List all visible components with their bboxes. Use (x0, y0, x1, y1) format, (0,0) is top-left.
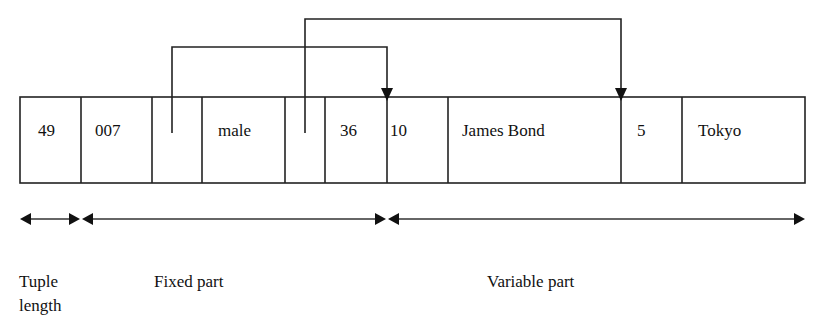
tuple-cell: 49 (20, 97, 81, 183)
cell-value: James Bond (462, 122, 545, 139)
variable-part-label: Variable part (487, 270, 574, 294)
cell-value: Tokyo (698, 122, 741, 139)
cell-value: 36 (340, 122, 357, 139)
cell-value: 49 (38, 122, 55, 139)
tuple-cell: 007 (81, 97, 152, 183)
tuple-cell: 10 (387, 97, 448, 183)
cell-value: 5 (637, 122, 646, 139)
tuple-cell: James Bond (448, 97, 621, 183)
tuple-length-label: Tuple length (19, 270, 62, 318)
tuple-cell: male (202, 97, 285, 183)
tuple-cell: 36 (325, 97, 387, 183)
cell-value: male (218, 122, 251, 139)
tuple-cell (285, 97, 325, 183)
tuple-length-line2: length (19, 294, 62, 318)
cell-value: 10 (390, 122, 407, 139)
tuple-cell (152, 97, 202, 183)
tuple-cell: 5 (621, 97, 682, 183)
tuple-length-line1: Tuple (19, 270, 62, 294)
tuple-cell: Tokyo (682, 97, 805, 183)
fixed-part-label: Fixed part (154, 270, 223, 294)
cell-value: 007 (95, 122, 121, 139)
